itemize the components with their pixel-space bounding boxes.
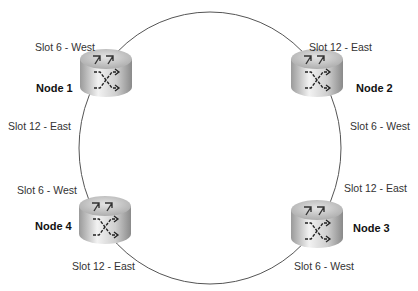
node2-port-west-label: Slot 6 - West — [350, 120, 410, 132]
router-icon — [78, 47, 134, 99]
node4-port-east-label: Slot 12 - East — [72, 260, 135, 272]
node1-label: Node 1 — [36, 82, 73, 94]
router-icon — [77, 194, 133, 246]
node3-port-west-label: Slot 6 - West — [294, 260, 354, 272]
node4-label: Node 4 — [35, 220, 72, 232]
ring-diagram: Slot 6 - West Slot 12 - East Node 1 Slot… — [0, 0, 418, 291]
router-icon — [289, 47, 345, 99]
node3-label: Node 3 — [353, 222, 390, 234]
node2-port-east-label: Slot 12 - East — [309, 41, 372, 53]
node1-port-west-label: Slot 6 - West — [35, 41, 95, 53]
node3-port-east-label: Slot 12 - East — [344, 182, 407, 194]
router-icon — [289, 198, 345, 250]
node4-port-west-label: Slot 6 - West — [17, 184, 77, 196]
node1-port-east-label: Slot 12 - East — [8, 120, 71, 132]
node2-label: Node 2 — [356, 82, 393, 94]
